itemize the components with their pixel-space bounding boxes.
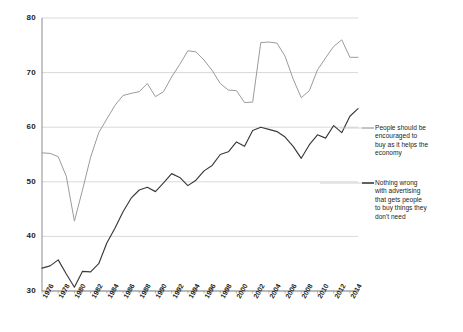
series-line-1 xyxy=(42,109,358,288)
y-tick-label: 40 xyxy=(12,232,36,240)
series-line-0 xyxy=(42,40,358,221)
line-chart: 304050607080 197619781980198219841986198… xyxy=(0,0,463,332)
chart-plot-area xyxy=(0,0,463,332)
legend-label-advertising: Nothing wrong with advertising that gets… xyxy=(375,179,461,221)
data-series-lines xyxy=(42,40,358,287)
y-tick-label: 80 xyxy=(12,14,36,22)
y-tick-label: 60 xyxy=(12,123,36,131)
legend-swatch-lines xyxy=(320,128,374,183)
y-tick-label: 70 xyxy=(12,69,36,77)
axis-lines xyxy=(42,18,358,291)
gridlines xyxy=(42,18,358,291)
y-tick-label: 50 xyxy=(12,178,36,186)
legend-label-encourage-buying: People should be encouraged to buy as it… xyxy=(375,124,461,158)
y-tick-label: 30 xyxy=(12,287,36,295)
